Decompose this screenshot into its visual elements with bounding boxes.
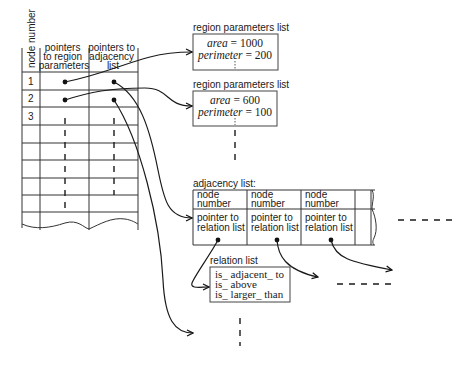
relation-list: relation list is_ adjacent_ to is_ above… — [210, 255, 395, 346]
relation-item: is_ larger_ than — [215, 288, 284, 300]
svg-text:area = 1000: area = 1000 — [207, 37, 263, 49]
svg-text:area = 600: area = 600 — [210, 94, 260, 106]
region-list-title: region parameters list — [193, 79, 289, 90]
node-number-header: node number — [26, 8, 37, 68]
adjacency-list: adjacency list: node number pointer to r… — [193, 178, 455, 245]
adjacency-cell-1-node: node number — [197, 189, 232, 209]
region-parameters-list-1: region parameters list area = 1000 perim… — [193, 22, 289, 70]
adjacency-cell-1-pointer: pointer to relation list — [197, 212, 245, 233]
region-parameters-list-2: region parameters list area = 600 perime… — [193, 79, 289, 160]
region-list-title: region parameters list — [193, 22, 289, 33]
row-number-1: 1 — [28, 76, 34, 87]
relation-list-title: relation list — [210, 255, 258, 266]
adjacency-cell-3-node: node number — [305, 189, 340, 209]
row-number-2: 2 — [28, 93, 34, 104]
adjacency-cell-3-pointer: pointer to relation list — [305, 212, 353, 233]
svg-text:perimeter = 200: perimeter = 200 — [197, 49, 272, 62]
adjacency-cell-2-node: node number — [251, 189, 286, 209]
svg-text:perimeter = 100: perimeter = 100 — [197, 106, 272, 119]
adjacency-pointer-header: pointers to adjacency list — [88, 42, 137, 71]
data-structure-diagram: node number pointers to region parameter… — [0, 0, 455, 366]
region-pointer-header: pointers to region parameters — [39, 42, 90, 71]
adjacency-list-title: adjacency list: — [193, 178, 256, 189]
row-number-3: 3 — [28, 111, 34, 122]
node-table: node number pointers to region parameter… — [22, 8, 138, 230]
adjacency-cell-2-pointer: pointer to relation list — [251, 212, 299, 233]
